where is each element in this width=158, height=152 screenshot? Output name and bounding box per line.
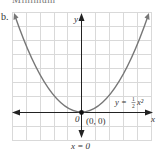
equation-label: y = 1 2 x² xyxy=(114,96,144,109)
vertex-point xyxy=(79,110,84,115)
x-axis-left-arrow-icon xyxy=(12,110,20,116)
y-axis-label: y xyxy=(73,14,78,24)
parabola-chart: y x 0 (0, 0) x = 0 y = 1 2 x² xyxy=(0,0,158,152)
equation-rhs: x² xyxy=(136,97,144,107)
vertex-label: (0, 0) xyxy=(86,116,106,126)
x-axis-label: x xyxy=(150,114,155,124)
y-axis-up-arrow-icon xyxy=(79,13,85,21)
equation-numerator: 1 xyxy=(132,96,135,102)
equation-lhs: y = xyxy=(114,97,127,107)
axis-of-symmetry-label: x = 0 xyxy=(70,141,91,151)
y-axis-down-arrow-icon xyxy=(79,130,85,138)
origin-label: 0 xyxy=(75,114,80,124)
equation-denominator: 2 xyxy=(132,103,135,109)
